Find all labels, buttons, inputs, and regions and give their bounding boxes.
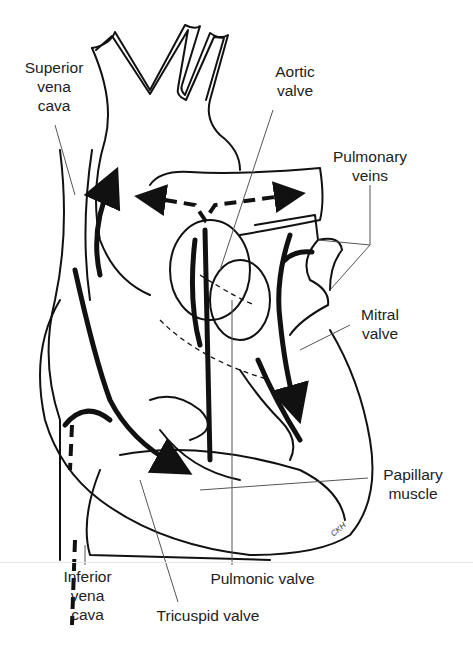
label-tricuspid-valve: Tricuspid valve [148,606,268,625]
leader-papillary [200,478,368,490]
flow-arrow-tricuspid [205,230,210,460]
leader-mitral [300,325,350,350]
aorta-left-wall [92,48,150,295]
flow-arrow-svc-up [97,185,110,275]
flow-arrow-ivc [65,411,110,425]
left-atrium [255,215,328,335]
leader-aortic [220,110,273,270]
label-mitral-valve: Mitral valve [350,305,410,343]
label-superior-vena-cava: Superior vena cava [14,58,94,115]
label-aortic-valve: Aortic valve [265,62,325,100]
label-pulmonic-valve: Pulmonic valve [200,569,325,588]
flow-arrow-pulmonary-split [165,195,290,220]
superior-vena-cava [49,150,64,560]
leader-svc [55,125,75,195]
leader-tricuspid [140,480,178,602]
separator-line [0,562,473,563]
label-inferior-vena-cava: Inferior vena cava [55,567,120,624]
label-pulmonary-veins: Pulmonary veins [325,147,415,185]
pulmonic-valve-ring [210,260,270,340]
aortic-arch [92,25,240,170]
label-papillary-muscle: Papillary muscle [373,465,453,503]
